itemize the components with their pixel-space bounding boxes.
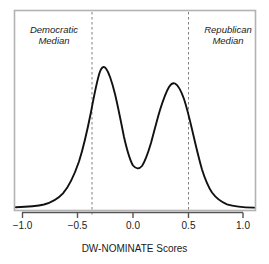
- republican-median-annotation: Republican Median: [192, 24, 264, 46]
- x-tick-label-0.0: 0.0: [113, 220, 153, 231]
- democratic-median-label-line1: Democratic: [18, 24, 90, 35]
- republican-median-label-line2: Median: [192, 35, 264, 46]
- democratic-median-label-line2: Median: [18, 35, 90, 46]
- x-tick-label--0.5: −0.5: [58, 220, 98, 231]
- republican-median-label-line1: Republican: [192, 24, 264, 35]
- density-chart-figure: Democratic Median Republican Median −1.0…: [0, 0, 269, 264]
- x-axis-title: DW-NOMINATE Scores: [0, 243, 269, 254]
- x-tick-label-0.5: 0.5: [169, 220, 209, 231]
- x-axis-ticks: [23, 213, 244, 219]
- density-curve: [16, 67, 254, 208]
- democratic-median-annotation: Democratic Median: [18, 24, 90, 46]
- x-tick-label--1.0: −1.0: [3, 220, 43, 231]
- x-tick-label-1.0: 1.0: [223, 220, 263, 231]
